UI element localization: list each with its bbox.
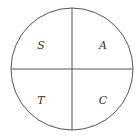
quadrant-label-top-right: A: [98, 39, 107, 52]
astc-quadrant-diagram: S A T C: [0, 0, 140, 138]
quadrant-label-bottom-left: T: [37, 94, 46, 107]
quadrant-label-bottom-right: C: [99, 94, 108, 107]
quadrant-label-top-left: S: [37, 39, 45, 52]
